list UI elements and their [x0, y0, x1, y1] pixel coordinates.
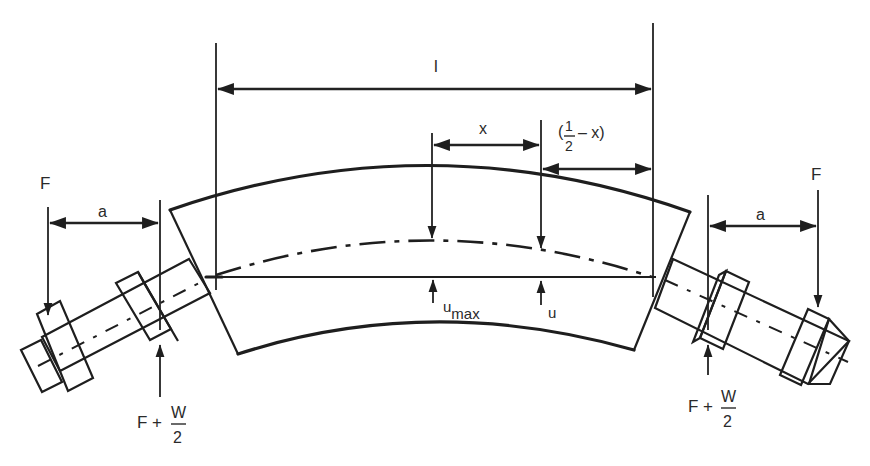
left-outer-nut-face: [21, 340, 62, 392]
right-reaction-label: F + W 2: [688, 388, 737, 430]
left-reaction-prefix: F +: [137, 413, 162, 432]
span-label: l: [434, 57, 438, 76]
right-inner-nut-face: [693, 271, 726, 342]
left-offset-label: a: [98, 203, 107, 220]
beam-diagram: l x ( 1 2 – x) umax u: [0, 0, 870, 466]
right-reaction-denominator: 2: [723, 413, 732, 430]
curved-beam: [170, 165, 690, 354]
right-bolt-assembly: [655, 259, 849, 385]
paren-open: (: [558, 123, 564, 140]
u-label: u: [548, 304, 556, 321]
right-bolt-shank: [655, 259, 849, 384]
right-offset-label: a: [756, 206, 765, 223]
half-minus-x-label: ( 1 2 – x): [558, 118, 605, 154]
beam-right-end: [634, 212, 690, 350]
beam-bottom-edge: [238, 322, 634, 354]
left-bolt-assembly: [21, 259, 210, 392]
u-max-base: u: [443, 298, 451, 315]
beam-top-edge: [170, 165, 690, 212]
right-reaction-prefix: F +: [688, 397, 713, 416]
neutral-axis: [216, 240, 652, 277]
right-force-label: F: [811, 165, 821, 184]
left-bolt-shank: [42, 259, 210, 371]
left-reaction-label: F + W 2: [137, 404, 187, 446]
u-max-label: umax: [443, 298, 480, 322]
left-force-label: F: [40, 174, 50, 193]
fraction-numerator: 1: [565, 118, 573, 134]
x-label: x: [479, 120, 487, 137]
left-reaction-denominator: 2: [173, 429, 182, 446]
left-reaction-numerator: W: [171, 404, 187, 421]
fraction-denominator: 2: [565, 138, 573, 154]
minus-x-text: – x): [578, 124, 605, 141]
u-max-subscript: max: [451, 305, 480, 322]
right-reaction-numerator: W: [721, 388, 737, 405]
